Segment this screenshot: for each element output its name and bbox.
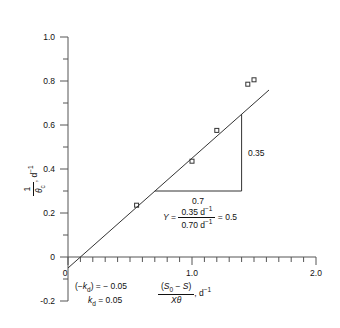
yield-equals: = <box>171 212 176 222</box>
y-tick-label: 1.0 <box>43 32 55 42</box>
intercept-annotation-line1: (−kd) = − 0.05 <box>75 281 127 293</box>
y-tick-label: 0.8 <box>43 76 55 86</box>
y-tick-label: 0 <box>50 252 55 262</box>
plot-canvas: 1.0 0.8 0.6 0.4 0.2 0 -0.2 0 1.0 2.0 0.3… <box>0 0 340 328</box>
intercept-annotation-line2: kd = 0.05 <box>88 295 122 307</box>
data-point <box>252 78 256 82</box>
y-axis-label-numerator: 1 <box>22 182 34 196</box>
data-point <box>215 128 219 132</box>
chart-figure: 1.0 0.8 0.6 0.4 0.2 0 -0.2 0 1.0 2.0 0.3… <box>0 0 340 328</box>
rise-label: 0.35 <box>248 148 265 158</box>
x-tick-label: 2.0 <box>310 268 322 278</box>
x-axis-label-denominator: Xθ <box>158 295 194 306</box>
yield-annotation: Y = 0.35 d−1 0.70 d−1 = 0.5 <box>163 205 237 231</box>
x-axis-label-numerator: (S0 − S) <box>158 281 194 295</box>
x-tick-labels: 0 1.0 2.0 <box>63 268 323 278</box>
x-tick-label: 1.0 <box>186 268 198 278</box>
y-axis-label: 1 θc , d−1 <box>22 165 47 196</box>
y-axis-label-units: , d <box>29 173 39 182</box>
yield-symbol: Y <box>163 212 169 222</box>
y-tick-label: -0.2 <box>40 296 55 306</box>
yield-denominator: 0.70 d−1 <box>178 218 215 231</box>
x-axis-label-units-exp: −1 <box>204 286 211 293</box>
yield-result: = 0.5 <box>218 212 237 222</box>
y-tick-label: 0.2 <box>43 208 55 218</box>
y-axis-label-units-exp: −1 <box>27 165 34 172</box>
x-tick-label: 0 <box>63 268 68 278</box>
data-point <box>246 82 250 86</box>
y-axis-label-denominator: θc <box>34 182 47 196</box>
x-axis-label: (S0 − S) Xθ , d−1 <box>158 281 211 306</box>
y-tick-label: 0.6 <box>43 120 55 130</box>
y-axis <box>60 37 68 301</box>
x-axis-label-units: , d <box>194 288 203 298</box>
x-axis <box>68 257 316 265</box>
data-points <box>135 78 256 207</box>
yield-numerator: 0.35 d−1 <box>178 205 215 218</box>
fit-line <box>68 90 269 268</box>
